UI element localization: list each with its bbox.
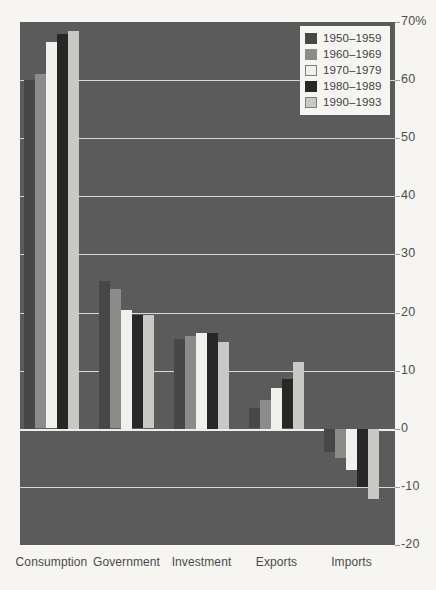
legend-item-label: 1970–1979 [323, 65, 381, 77]
bar-group [24, 22, 79, 545]
bar [335, 429, 346, 458]
bar [346, 429, 357, 470]
legend-item-label: 1980–1989 [323, 81, 381, 93]
bar [46, 42, 57, 428]
bar-group [99, 22, 154, 545]
y-axis-tick-mark [395, 22, 400, 23]
legend-item: 1980–1989 [305, 79, 384, 94]
bar-group [249, 22, 304, 545]
bar [143, 315, 154, 428]
bar [99, 281, 110, 429]
chart-legend: 1950–19591960–19691970–19791980–19891990… [300, 26, 390, 115]
bar-chart: 70%6050403020100-10-20 ConsumptionGovern… [0, 0, 436, 590]
y-axis-tick-label: -20 [401, 538, 420, 551]
bar [324, 429, 335, 452]
y-axis-tick-mark [395, 371, 400, 372]
y-axis-tick-mark [395, 313, 400, 314]
bar [218, 342, 229, 429]
y-axis-tick-label: 10 [401, 364, 415, 377]
legend-item-label: 1990–1993 [323, 97, 381, 109]
legend-swatch-icon [305, 33, 317, 44]
legend-swatch-icon [305, 81, 317, 92]
legend-item-label: 1950–1959 [323, 33, 381, 45]
bar [68, 31, 79, 429]
bar [57, 34, 68, 429]
bar [368, 429, 379, 499]
bar [185, 336, 196, 429]
y-axis-tick-label: 0 [401, 422, 408, 435]
bar [271, 388, 282, 429]
legend-item-label: 1960–1969 [323, 49, 381, 61]
bar [357, 429, 368, 487]
y-axis-tick-label: 20 [401, 306, 415, 319]
y-axis-tick-mark [395, 545, 400, 546]
legend-swatch-icon [305, 49, 317, 60]
y-axis-tick-mark [395, 254, 400, 255]
y-axis-tick-label: 60 [401, 73, 415, 86]
y-axis-tick-label: 40 [401, 189, 415, 202]
legend-item: 1950–1959 [305, 31, 384, 46]
legend-item: 1990–1993 [305, 95, 384, 110]
legend-item: 1960–1969 [305, 47, 384, 62]
bar [121, 310, 132, 429]
y-axis-tick-mark [395, 196, 400, 197]
legend-swatch-icon [305, 97, 317, 108]
legend-swatch-icon [305, 65, 317, 76]
bar [196, 333, 207, 429]
bar [24, 80, 35, 429]
bar [282, 379, 293, 428]
bar [293, 362, 304, 429]
bar [174, 339, 185, 429]
bar [35, 74, 46, 428]
y-axis-tick-label: -10 [401, 480, 420, 493]
y-axis-tick-mark [395, 80, 400, 81]
y-axis-tick-label: 70% [401, 15, 427, 28]
y-axis-tick-label: 50 [401, 131, 415, 144]
bar [207, 333, 218, 429]
legend-item: 1970–1979 [305, 63, 384, 78]
y-axis-tick-label: 30 [401, 247, 415, 260]
bar [260, 400, 271, 429]
x-axis-tick-label-imports: Imports [307, 556, 397, 568]
y-axis-tick-mark [395, 487, 400, 488]
bar-group [174, 22, 229, 545]
y-axis-tick-mark [395, 429, 400, 430]
y-axis-tick-mark [395, 138, 400, 139]
bar [110, 289, 121, 428]
bar [249, 408, 260, 428]
bar [132, 315, 143, 428]
